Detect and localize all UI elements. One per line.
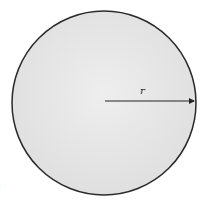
radius-label: r bbox=[140, 85, 145, 96]
circle-shape bbox=[12, 11, 196, 195]
circle-diagram bbox=[0, 0, 200, 203]
cropped-mark: ) bbox=[0, 180, 1, 194]
